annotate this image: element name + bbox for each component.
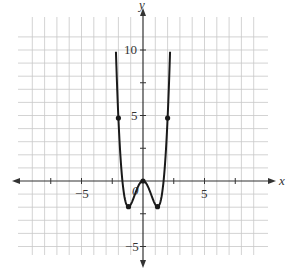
y-axis-down-arrow-icon <box>140 260 146 268</box>
y-tick-label-5: 5 <box>131 108 138 123</box>
data-point <box>155 204 160 209</box>
y-tick-label-10: 10 <box>124 42 137 57</box>
data-point <box>165 116 170 121</box>
function-plot: x y −5 5 10 5 −5 0 <box>0 0 286 269</box>
x-axis-right-arrow-icon <box>268 178 276 184</box>
graph-figure: x y −5 5 10 5 −5 0 <box>0 0 286 269</box>
x-tick-label-neg5: −5 <box>75 186 89 201</box>
x-tick-label-5: 5 <box>201 186 208 201</box>
x-axis-left-arrow-icon <box>12 178 20 184</box>
data-point <box>116 116 121 121</box>
data-point <box>140 178 145 183</box>
x-axis-label: x <box>278 173 285 188</box>
y-tick-label-neg5: −5 <box>125 239 139 254</box>
data-point <box>126 204 131 209</box>
y-axis-label: y <box>137 0 145 12</box>
